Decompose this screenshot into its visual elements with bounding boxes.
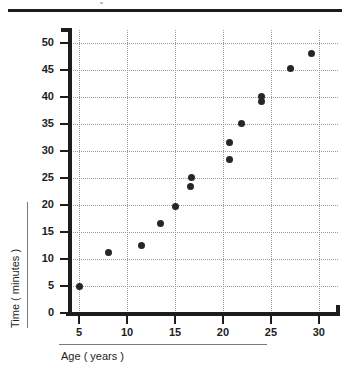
scatter-point (138, 242, 145, 249)
y-tick-label: 30 (26, 145, 54, 156)
y-tick-label: 20 (26, 199, 54, 210)
scatter-point (308, 50, 315, 57)
x-axis-right-cap (336, 305, 340, 316)
y-tick-label: 10 (26, 253, 54, 264)
x-tick-mark (270, 316, 272, 324)
gridline-vertical (175, 30, 176, 313)
y-tick-mark (60, 231, 68, 233)
y-tick-mark (60, 312, 68, 314)
y-tick-mark (60, 150, 68, 152)
gridline-horizontal (60, 151, 338, 152)
y-tick-mark (60, 96, 68, 98)
plot-area (60, 30, 338, 313)
y-tick-label: 5 (26, 280, 54, 291)
x-tick-mark (222, 316, 224, 324)
scatter-point (226, 156, 233, 163)
y-tick-mark (60, 42, 68, 44)
x-tick-label: 20 (208, 327, 238, 338)
y-tick-label: 0 (26, 307, 54, 318)
y-tick-mark (60, 177, 68, 179)
y-tick-mark (60, 258, 68, 260)
x-tick-label: 10 (112, 327, 142, 338)
gridline-horizontal (60, 286, 338, 287)
x-axis-line (66, 312, 340, 316)
y-tick-label: 15 (26, 226, 54, 237)
scatter-point (238, 120, 245, 127)
gridline-vertical (79, 30, 80, 313)
gridline-horizontal (60, 205, 338, 206)
x-tick-label: 5 (64, 327, 94, 338)
gridline-vertical (271, 30, 272, 313)
y-axis-line (68, 28, 72, 316)
gridline-horizontal (60, 178, 338, 179)
x-tick-mark (174, 316, 176, 324)
scatter-point (226, 139, 233, 146)
scatter-chart-figure: 05101520253035404550 51015202530 Age ( y… (0, 0, 349, 366)
y-axis-top-cap (61, 28, 72, 32)
y-tick-label: 50 (26, 37, 54, 48)
scatter-point (157, 220, 164, 227)
gridline-vertical (223, 30, 224, 313)
x-axis-title: Age ( years ) (59, 344, 269, 362)
scatter-point (76, 283, 83, 290)
y-tick-mark (60, 204, 68, 206)
y-axis-title: Time ( minutes ) (2, 202, 28, 330)
x-tick-label: 30 (304, 327, 334, 338)
scatter-point (172, 203, 179, 210)
y-tick-label: 35 (26, 118, 54, 129)
x-axis-title-label: Age ( years ) (59, 350, 269, 362)
y-tick-mark (60, 69, 68, 71)
y-tick-mark (60, 123, 68, 125)
x-axis-title-rule (59, 344, 267, 345)
y-tick-label: 25 (26, 172, 54, 183)
x-tick-label: 15 (160, 327, 190, 338)
gridline-horizontal (60, 124, 338, 125)
y-axis-title-label: Time ( minutes ) (9, 200, 21, 328)
gridline-vertical (127, 30, 128, 313)
y-tick-label: 45 (26, 64, 54, 75)
gridline-horizontal (60, 259, 338, 260)
gridline-vertical (319, 30, 320, 313)
x-tick-mark (318, 316, 320, 324)
scatter-point (287, 65, 294, 72)
x-tick-label: 25 (256, 327, 286, 338)
y-tick-label: 40 (26, 91, 54, 102)
x-tick-mark (78, 316, 80, 324)
scatter-point (188, 174, 195, 181)
gridline-horizontal (60, 70, 338, 71)
gridline-horizontal (60, 232, 338, 233)
gridline-horizontal (60, 43, 338, 44)
y-tick-mark (60, 285, 68, 287)
x-tick-mark (126, 316, 128, 324)
scatter-point (187, 183, 194, 190)
scatter-point (105, 249, 112, 256)
gridline-horizontal (60, 97, 338, 98)
y-axis-title-rule (27, 202, 28, 328)
